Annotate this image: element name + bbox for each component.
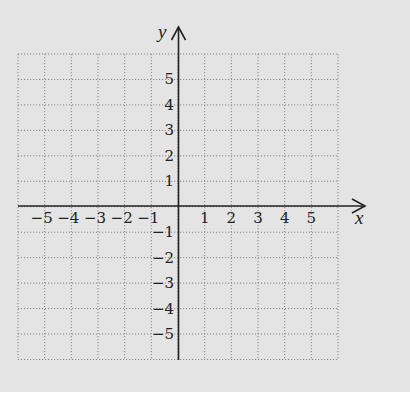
y-tick-label: −2 <box>152 249 174 267</box>
y-tick-label: −4 <box>152 300 174 318</box>
coordinate-plane: x y −5−4−3−2−112345 54321−1−2−3−4−5 <box>0 0 410 398</box>
x-axis-label: x <box>354 207 364 228</box>
y-tick-label: −5 <box>152 325 174 343</box>
y-tick-label: 4 <box>164 96 174 114</box>
y-tick-label: 3 <box>164 121 174 139</box>
y-tick-label: 2 <box>164 147 174 165</box>
y-tick-label: 5 <box>164 70 174 88</box>
x-tick-label: −2 <box>111 209 133 227</box>
x-tick-label: 1 <box>200 209 210 227</box>
x-tick-label: −5 <box>31 209 53 227</box>
x-tick-label: 4 <box>280 209 290 227</box>
x-tick-label: −3 <box>84 209 106 227</box>
y-tick-label: −3 <box>152 274 174 292</box>
x-tick-label: 3 <box>253 209 263 227</box>
x-tick-label: −4 <box>57 209 79 227</box>
x-tick-label: 5 <box>307 209 317 227</box>
y-axis-label: y <box>156 21 167 42</box>
y-tick-label: −1 <box>152 223 174 241</box>
y-tick-label: 1 <box>164 172 174 190</box>
x-tick-label: 2 <box>227 209 237 227</box>
axes <box>18 27 365 360</box>
